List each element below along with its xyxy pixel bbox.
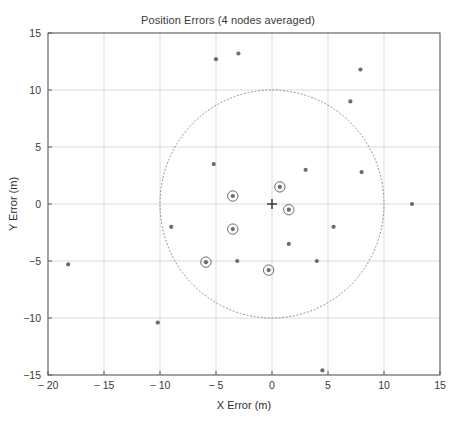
- y-axis-title: Y Error (m): [7, 177, 19, 231]
- y-tick-label: −5: [29, 255, 41, 267]
- axis-ticks: − 20− 15− 10− 5051015−15−10−5051015: [23, 27, 446, 391]
- data-point: [315, 259, 319, 263]
- data-point: [267, 268, 271, 272]
- x-tick-label: − 10: [150, 379, 171, 391]
- x-tick-label: − 5: [209, 379, 224, 391]
- data-point: [304, 168, 308, 172]
- data-point: [360, 170, 364, 174]
- data-point: [66, 262, 70, 266]
- data-point: [332, 225, 336, 229]
- data-point: [204, 260, 208, 264]
- data-point: [214, 57, 218, 61]
- data-point: [236, 51, 240, 55]
- data-point: [320, 368, 324, 372]
- data-point: [287, 242, 291, 246]
- data-point: [169, 225, 173, 229]
- y-tick-label: 15: [29, 27, 41, 39]
- y-tick-label: 0: [35, 198, 41, 210]
- data-point: [278, 185, 282, 189]
- data-point: [235, 259, 239, 263]
- data-point: [231, 194, 235, 198]
- data-point: [348, 99, 352, 103]
- grid-lines: [48, 33, 440, 375]
- axis-labels: X Error (m)Y Error (m): [7, 177, 271, 411]
- x-tick-label: − 15: [94, 379, 115, 391]
- x-tick-label: 10: [378, 379, 390, 391]
- data-points: [66, 51, 414, 372]
- data-point: [358, 67, 362, 71]
- x-axis-title: X Error (m): [217, 399, 271, 411]
- y-tick-label: 5: [35, 141, 41, 153]
- data-point: [287, 208, 291, 212]
- data-point: [156, 320, 160, 324]
- x-tick-label: 15: [434, 379, 446, 391]
- data-point: [212, 162, 216, 166]
- data-point: [410, 202, 414, 206]
- x-tick-label: 5: [325, 379, 331, 391]
- y-tick-label: 10: [29, 84, 41, 96]
- origin-cross-marker: [267, 199, 277, 209]
- figure-container: Position Errors (4 nodes averaged) − 20−…: [0, 0, 456, 421]
- scatter-plot: − 20− 15− 10− 5051015−15−10−5051015 X Er…: [0, 0, 456, 421]
- x-tick-label: 0: [269, 379, 275, 391]
- y-tick-label: −15: [23, 369, 41, 381]
- data-point: [231, 227, 235, 231]
- y-tick-label: −10: [23, 312, 41, 324]
